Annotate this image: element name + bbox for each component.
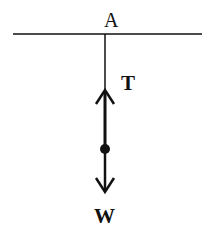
tension-label: T	[121, 73, 135, 94]
mass-point	[100, 144, 110, 154]
point-label-a: A	[104, 10, 118, 30]
weight-label: W	[94, 206, 115, 227]
